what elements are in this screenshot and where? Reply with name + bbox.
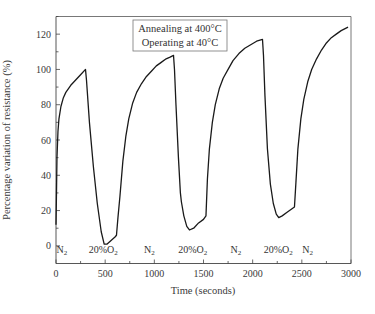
x-tick-label: 3000 (341, 268, 361, 279)
annotation-line-1: Annealing at 400°C (138, 23, 222, 34)
series-line (56, 27, 348, 244)
phase-label: 20%O2 (89, 244, 119, 258)
y-tick-label: 100 (36, 64, 51, 75)
x-tick-label: 2000 (243, 268, 263, 279)
phase-label: 20%O2 (178, 244, 208, 258)
phase-label: N2 (231, 244, 242, 258)
chart: 050010001500200025003000 020406080100120… (0, 0, 375, 314)
phase-labels: N220%O2N220%O2N220%O2N2 (57, 244, 314, 258)
series-group (56, 27, 348, 244)
y-tick-label: 120 (36, 29, 51, 40)
x-tick-label: 1500 (194, 268, 214, 279)
annotation-line-2: Operating at 40°C (142, 37, 219, 48)
x-tick-label: 500 (98, 268, 113, 279)
x-tick-label: 2500 (292, 268, 312, 279)
phase-label: 20%O2 (264, 244, 294, 258)
y-axis-title: Percentage variation of resistance (%) (1, 60, 13, 220)
y-tick-label: 60 (41, 135, 51, 146)
x-axis-ticks: 050010001500200025003000 (54, 260, 362, 279)
phase-label: N2 (57, 244, 68, 258)
phase-label: N2 (144, 244, 155, 258)
annotation-box: Annealing at 400°C Operating at 40°C (133, 20, 227, 51)
x-tick-label: 0 (54, 268, 59, 279)
x-axis-title: Time (seconds) (171, 285, 236, 297)
phase-label: N2 (302, 244, 313, 258)
x-tick-label: 1000 (144, 268, 164, 279)
y-tick-label: 80 (41, 99, 51, 110)
y-tick-label: 20 (41, 205, 51, 216)
y-tick-label: 0 (46, 240, 51, 251)
y-tick-label: 40 (41, 170, 51, 181)
